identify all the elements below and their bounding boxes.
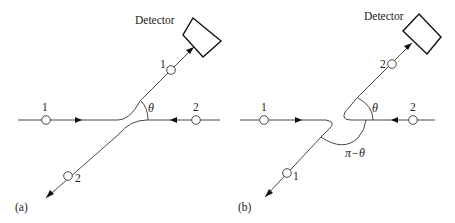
arrow-left-icon: [170, 117, 177, 123]
detector-label-a: Detector: [135, 14, 175, 26]
particle-2-outgoing-a: [64, 172, 73, 181]
outgoing-path-lower-a: [46, 135, 118, 198]
incoming-path-right-a: [118, 120, 220, 135]
panel-a: Detector 1 1 2 2 θ (a): [15, 14, 221, 214]
panel-caption-b: (b): [238, 201, 252, 214]
arrow-right-icon: [75, 117, 82, 123]
angle-label-b: θ: [372, 101, 378, 115]
panel-caption-a: (a): [15, 201, 28, 214]
outgoing-upper-label-b: 2: [380, 58, 386, 70]
panel-b: Detector 1 1 2 2 θ: [238, 10, 441, 214]
particle-1-outgoing-a: [167, 66, 176, 75]
scattering-diagram: Detector 1 1 2 2 θ (a): [0, 0, 455, 223]
arrow-up-right-icon: [404, 43, 412, 50]
arrow-down-left-icon: [46, 190, 54, 198]
incoming-path-left-b: [240, 120, 332, 136]
particle-2-incoming-a: [192, 116, 201, 125]
detector-label-b: Detector: [364, 10, 404, 22]
particle-1-incoming-a: [42, 116, 51, 125]
particle-2-incoming-b: [409, 116, 418, 125]
outgoing-path-upper-a: [140, 47, 194, 101]
incoming-path-right-b: [344, 98, 435, 120]
supplementary-angle-label-b: π−θ: [345, 146, 365, 160]
incoming-left-label-b: 1: [261, 101, 267, 113]
arrow-left-icon: [391, 117, 398, 123]
arrow-up-right-icon: [186, 47, 194, 54]
angle-label-a: θ: [148, 101, 154, 115]
supplementary-angle-arc-b: [321, 120, 366, 145]
particle-1-incoming-b: [260, 116, 269, 125]
incoming-left-label-a: 1: [42, 101, 48, 113]
outgoing-lower-label-a: 2: [75, 172, 81, 184]
angle-arc-b: [358, 98, 373, 120]
angle-arc-a: [141, 101, 148, 120]
particle-1-outgoing-b: [283, 169, 292, 178]
outgoing-lower-label-b: 1: [293, 170, 299, 182]
incoming-right-label-b: 2: [410, 101, 416, 113]
particle-2-outgoing-b: [388, 60, 397, 69]
outgoing-upper-label-a: 1: [160, 58, 166, 70]
arrow-right-icon: [295, 117, 302, 123]
outgoing-path-upper-b: [357, 43, 412, 98]
outgoing-path-lower-b: [265, 136, 322, 197]
incoming-right-label-a: 2: [193, 101, 199, 113]
incoming-path-left-a: [18, 101, 140, 120]
